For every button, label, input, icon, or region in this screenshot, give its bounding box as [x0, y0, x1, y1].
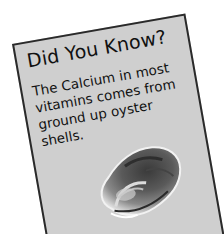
stage: Did You Know? The Calcium in most vitami… [0, 0, 224, 234]
oyster-shell-icon [82, 136, 194, 230]
did-you-know-card: Did You Know? The Calcium in most vitami… [12, 13, 224, 234]
